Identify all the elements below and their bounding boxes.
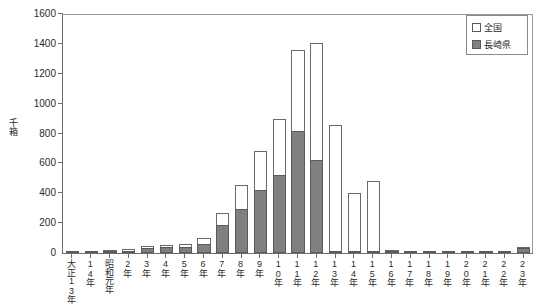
bar-nagasaki (235, 209, 248, 253)
plot-area (62, 14, 533, 254)
bar-group (442, 14, 455, 253)
plot-border-top (62, 14, 532, 15)
legend-swatch-nagasaki (472, 40, 481, 49)
x-axis-tick-mark (259, 253, 260, 258)
bar-group (273, 14, 286, 253)
x-axis-tick-mark (241, 253, 242, 258)
bar-total (329, 125, 342, 253)
x-axis-tick-label: 5年 (179, 259, 188, 277)
y-axis-tick-label: 800 (16, 128, 56, 139)
x-axis-tick-label: 22年 (499, 259, 508, 287)
x-axis-tick-label: 18年 (424, 259, 433, 287)
bar-nagasaki (273, 175, 286, 253)
legend-item-nagasaki: 長崎県 (472, 38, 511, 51)
bar-group (103, 14, 116, 253)
legend-item-total: 全国 (472, 21, 502, 34)
x-axis-tick-label: 2年 (123, 259, 132, 277)
x-axis-tick-mark (316, 253, 317, 258)
x-axis-tick-label: 大正13年 (66, 259, 75, 304)
bar-group (66, 14, 79, 253)
y-axis-tick-label: 1000 (16, 98, 56, 109)
bar-nagasaki (404, 251, 417, 253)
y-axis-tick-label: 400 (16, 187, 56, 198)
bar-group (310, 14, 323, 253)
x-axis-tick-label: 12年 (311, 259, 320, 287)
x-axis-tick-label: 11年 (292, 259, 301, 287)
bar-nagasaki (442, 251, 455, 253)
x-axis-tick-mark (90, 253, 91, 258)
bar-group (197, 14, 210, 253)
bar-group (216, 14, 229, 253)
bar-group (85, 14, 98, 253)
chart-legend: 全国 長崎県 (466, 15, 528, 55)
x-axis-tick-mark (335, 253, 336, 258)
bar-group (423, 14, 436, 253)
bar-nagasaki (329, 251, 342, 253)
x-axis-tick-label: 14年 (348, 259, 357, 287)
plot-border-right (532, 14, 533, 253)
bar-group (254, 14, 267, 253)
x-axis-tick-label: 8年 (236, 259, 245, 277)
x-axis-tick-mark (297, 253, 298, 258)
bar-nagasaki (348, 251, 361, 253)
x-axis-tick-label: 19年 (442, 259, 451, 287)
x-axis-tick-mark (391, 253, 392, 258)
bar-nagasaki (517, 248, 530, 253)
bar-series-container (63, 14, 533, 253)
bar-nagasaki (291, 131, 304, 253)
x-axis-tick-mark (203, 253, 204, 258)
y-axis-tick-label: 200 (16, 217, 56, 228)
bar-group (329, 14, 342, 253)
x-axis-tick-label: 10年 (273, 259, 282, 287)
x-axis-tick-mark (128, 253, 129, 258)
bar-group (122, 14, 135, 253)
x-axis-tick-mark (147, 253, 148, 258)
bar-group (291, 14, 304, 253)
x-axis-tick-mark (410, 253, 411, 258)
bar-group (348, 14, 361, 253)
legend-label-total: 全国 (484, 23, 502, 33)
x-axis-tick-label: 9年 (254, 259, 263, 277)
x-axis-tick-mark (523, 253, 524, 258)
x-axis-tick-label: 23年 (518, 259, 527, 287)
bar-nagasaki (160, 247, 173, 253)
bar-nagasaki (461, 251, 474, 253)
bar-nagasaki (254, 190, 267, 253)
x-axis-tick-mark (353, 253, 354, 258)
bar-nagasaki (141, 248, 154, 253)
bar-nagasaki (423, 251, 436, 253)
x-axis-tick-mark (372, 253, 373, 258)
x-axis-tick-mark (466, 253, 467, 258)
x-axis-tick-mark (278, 253, 279, 258)
y-axis-tick-label: 1400 (16, 38, 56, 49)
bar-group (160, 14, 173, 253)
bar-nagasaki (85, 251, 98, 253)
bar-group (385, 14, 398, 253)
x-axis-tick-mark (222, 253, 223, 258)
x-axis-tick-label: 17年 (405, 259, 414, 287)
x-axis-tick-label: 21年 (480, 259, 489, 287)
bar-nagasaki (367, 251, 380, 253)
bar-nagasaki (310, 160, 323, 253)
x-axis-tick-label: 4年 (160, 259, 169, 277)
bar-nagasaki (498, 251, 511, 253)
bar-group (179, 14, 192, 253)
x-axis-tick-label: 昭和元年 (104, 259, 113, 293)
bar-total (348, 193, 361, 253)
x-axis-tick-label: 13年 (330, 259, 339, 287)
bar-total (367, 181, 380, 253)
chart-root: 千箱 02004006008001000120014001600 大正13年14… (0, 0, 543, 308)
bar-nagasaki (122, 251, 135, 253)
x-axis-tick-mark (184, 253, 185, 258)
bar-nagasaki (66, 251, 79, 253)
x-axis-tick-label: 3年 (142, 259, 151, 277)
x-axis-tick-mark (485, 253, 486, 258)
bar-group (235, 14, 248, 253)
bar-group (141, 14, 154, 253)
x-axis-tick-label: 14年 (85, 259, 94, 287)
x-axis-tick-label: 16年 (386, 259, 395, 287)
bar-nagasaki (197, 244, 210, 253)
y-axis-tick-label: 600 (16, 157, 56, 168)
x-axis-tick-label: 15年 (367, 259, 376, 287)
x-axis-tick-mark (109, 253, 110, 258)
